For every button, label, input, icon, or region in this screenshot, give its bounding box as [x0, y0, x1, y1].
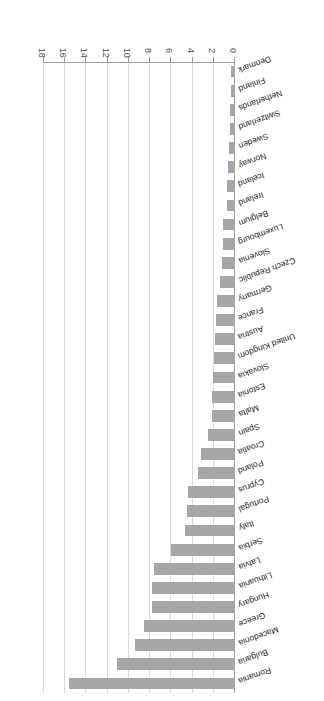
category-label-wrap: Sweden	[44, 139, 235, 158]
tick-label-0: 0	[228, 48, 238, 53]
bar-row[interactable]: Malta	[44, 406, 235, 425]
category-label: Germany	[233, 283, 273, 306]
bar[interactable]	[198, 467, 235, 479]
bar-row[interactable]: Hungary	[44, 597, 235, 616]
bar-row[interactable]: Estonia	[44, 387, 235, 406]
bar[interactable]	[223, 238, 235, 250]
bar[interactable]	[230, 123, 235, 135]
bar-row[interactable]: Luxembourg	[44, 234, 235, 253]
category-label: Hungary	[233, 590, 270, 612]
bar-row[interactable]: Denmark	[44, 62, 235, 81]
bar[interactable]	[217, 295, 235, 307]
category-label-wrap: Austria	[44, 330, 235, 349]
bar[interactable]	[231, 85, 235, 97]
bar[interactable]	[227, 180, 235, 192]
bar[interactable]	[227, 200, 235, 212]
bar[interactable]	[171, 544, 235, 556]
bar-row[interactable]: Serbia	[44, 540, 235, 559]
category-label-wrap: Luxembourg	[44, 234, 235, 253]
bar[interactable]	[208, 429, 235, 441]
category-label: Malta	[233, 403, 260, 421]
bar-row[interactable]: Romania	[44, 674, 235, 693]
category-label: Iceland	[233, 171, 266, 191]
category-label: Sweden	[233, 131, 269, 152]
bar[interactable]	[185, 525, 235, 537]
category-label: Denmark	[233, 54, 273, 77]
bar[interactable]	[214, 352, 235, 364]
bar[interactable]	[222, 257, 235, 269]
category-label-wrap: Belgium	[44, 215, 235, 234]
bar[interactable]	[230, 104, 235, 116]
bar-row[interactable]: France	[44, 311, 235, 330]
bar-row[interactable]: Greece	[44, 617, 235, 636]
bar-row[interactable]: Croatia	[44, 444, 235, 463]
bar[interactable]	[231, 66, 235, 78]
bar[interactable]	[117, 658, 235, 670]
bar-row[interactable]: Slovakia	[44, 368, 235, 387]
category-label: Netherlands	[233, 88, 283, 114]
tick-label-6: 6	[164, 48, 174, 53]
bar[interactable]	[154, 563, 235, 575]
category-label-wrap: United Kingdom	[44, 349, 235, 368]
bar-row[interactable]: Czech Republic	[44, 272, 235, 291]
bar[interactable]	[223, 219, 235, 231]
category-label: Spain	[233, 421, 261, 439]
bar[interactable]	[201, 448, 235, 460]
tick-label-12: 12	[101, 48, 111, 58]
bar[interactable]	[69, 678, 235, 690]
bar[interactable]	[187, 505, 235, 517]
category-label-wrap: Slovakia	[44, 368, 235, 387]
bar-row[interactable]: Cyprus	[44, 483, 235, 502]
category-label-wrap: Iceland	[44, 177, 235, 196]
tick-label-4: 4	[186, 48, 196, 53]
category-label: Serbia	[233, 535, 263, 554]
bar[interactable]	[188, 486, 235, 498]
category-label: Croatia	[233, 439, 266, 459]
bar[interactable]	[213, 372, 235, 384]
bar-row[interactable]: Finland	[44, 81, 235, 100]
category-label: United Kingdom	[233, 332, 297, 363]
bar-row[interactable]: Austria	[44, 330, 235, 349]
bar[interactable]	[212, 391, 235, 403]
category-label: Luxembourg	[233, 221, 285, 248]
category-label-wrap: Estonia	[44, 387, 235, 406]
bar[interactable]	[135, 639, 235, 651]
bar[interactable]	[228, 161, 235, 173]
bar-row[interactable]: Iceland	[44, 177, 235, 196]
bar-row[interactable]: Spain	[44, 425, 235, 444]
bar-row[interactable]: Poland	[44, 464, 235, 483]
bar-row[interactable]: Latvia	[44, 559, 235, 578]
bar-row[interactable]: Switzerland	[44, 119, 235, 138]
bar[interactable]	[152, 601, 235, 613]
bar-row[interactable]: Ireland	[44, 196, 235, 215]
bar-row[interactable]: Lithuania	[44, 578, 235, 597]
bar[interactable]	[152, 582, 235, 594]
category-label: Austria	[233, 324, 265, 344]
bar-row[interactable]: Portugal	[44, 502, 235, 521]
bar[interactable]	[215, 333, 235, 345]
category-label-wrap: Switzerland	[44, 119, 235, 138]
category-label: Bulgaria	[233, 648, 269, 669]
bar-row[interactable]: Sweden	[44, 139, 235, 158]
bar-row[interactable]: Germany	[44, 291, 235, 310]
category-label: Switzerland	[233, 108, 281, 134]
bar[interactable]	[216, 314, 235, 326]
bar-row[interactable]: Belgium	[44, 215, 235, 234]
bar-row[interactable]: Slovenia	[44, 253, 235, 272]
bar-chart: 024681012141618 RomaniaBulgariaMacedonia…	[0, 0, 324, 701]
bar[interactable]	[212, 410, 235, 422]
bar-row[interactable]: Macedonia	[44, 636, 235, 655]
bar-row[interactable]: United Kingdom	[44, 349, 235, 368]
tick-label-18: 18	[37, 48, 47, 58]
bar-row[interactable]: Norway	[44, 158, 235, 177]
bar[interactable]	[220, 276, 235, 288]
category-label-wrap: Spain	[44, 425, 235, 444]
bar-row[interactable]: Italy	[44, 521, 235, 540]
tick-label-2: 2	[207, 48, 217, 53]
bar-row[interactable]: Netherlands	[44, 100, 235, 119]
bar-row[interactable]: Bulgaria	[44, 655, 235, 674]
category-label: Macedonia	[233, 625, 279, 650]
bar[interactable]	[144, 620, 235, 632]
bar[interactable]	[229, 142, 235, 154]
plot-area: 024681012141618 RomaniaBulgariaMacedonia…	[44, 48, 235, 693]
